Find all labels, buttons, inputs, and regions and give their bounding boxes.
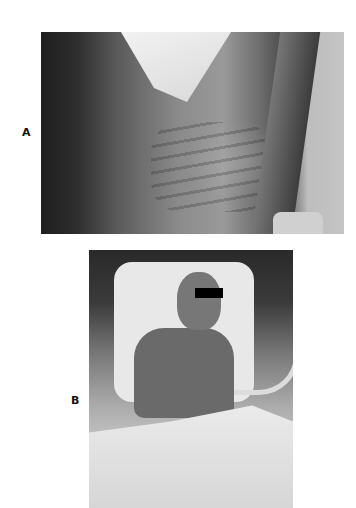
- ribs-shape: [151, 122, 271, 212]
- torso-shape: [134, 328, 234, 418]
- wrist-wrap-shape: [273, 212, 323, 234]
- head-shape: [177, 272, 221, 330]
- panel-b-label: B: [71, 395, 79, 406]
- gown-shape: [121, 32, 231, 102]
- panel-a-photo: [41, 32, 344, 234]
- panel-b-photo: [89, 250, 293, 508]
- privacy-bar: [195, 288, 223, 298]
- panel-a-label: A: [22, 127, 31, 138]
